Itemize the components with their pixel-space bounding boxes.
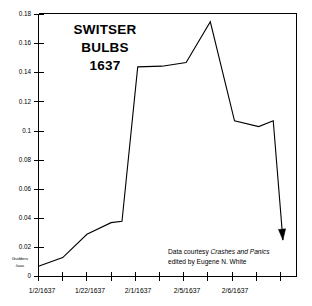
y-axis-unit-line-1: Guilders xyxy=(12,256,29,261)
x-axis-tick-labels: 1/2/1637 1/22/1637 2/1/1637 2/5/1637 2/6… xyxy=(29,287,249,294)
x-tick-label-4: 2/6/1637 xyxy=(222,287,249,294)
credit-line-2: edited by Eugene N. White xyxy=(168,258,247,266)
y-tick-label-0: 0 xyxy=(27,272,31,279)
title-line-2: BULBS xyxy=(81,40,129,55)
y-tick-label-4: 0.08 xyxy=(19,156,32,163)
credit-line-1: Data courtesy Crashes and Panics xyxy=(168,248,270,256)
y-tick-label-2: 0.04 xyxy=(19,214,32,221)
y-axis-unit-label: Guilders /aas xyxy=(12,256,29,268)
y-tick-label-8: 0.16 xyxy=(19,39,32,46)
y-tick-label-3: 0.06 xyxy=(19,185,32,192)
credit-plain: Data courtesy xyxy=(168,248,211,256)
y-axis-unit-line-2: /aas xyxy=(16,263,25,268)
price-series-line xyxy=(39,22,283,267)
y-tick-label-1: 0.02 xyxy=(19,243,32,250)
x-tick-label-0: 1/2/1637 xyxy=(29,287,56,294)
data-credit-annotation: Data courtesy Crashes and Panics edited … xyxy=(168,248,270,266)
chart-figure: 0 0.02 0.04 0.06 0.08 0.1 0.12 0.14 0.16… xyxy=(0,0,312,306)
x-tick-label-2: 2/1/1637 xyxy=(125,287,152,294)
switser-bulbs-line-chart: 0 0.02 0.04 0.06 0.08 0.1 0.12 0.14 0.16… xyxy=(0,0,312,306)
x-tick-label-3: 2/5/1637 xyxy=(174,287,201,294)
y-axis-tick-labels: 0 0.02 0.04 0.06 0.08 0.1 0.12 0.14 0.16… xyxy=(19,10,32,279)
y-tick-label-9: 0.18 xyxy=(19,10,32,17)
down-arrow-icon xyxy=(278,229,285,240)
credit-source-title: Crashes and Panics xyxy=(211,248,271,255)
y-tick-label-7: 0.14 xyxy=(19,68,32,75)
y-tick-label-6: 0.12 xyxy=(19,98,32,105)
y-tick-label-5: 0.1 xyxy=(22,127,31,134)
x-tick-label-1: 1/22/1637 xyxy=(75,287,105,294)
title-line-1: SWITSER xyxy=(74,22,137,37)
page-title: SWITSER BULBS 1637 xyxy=(74,22,137,73)
plot-frame xyxy=(39,14,297,277)
title-line-3: 1637 xyxy=(90,58,121,73)
